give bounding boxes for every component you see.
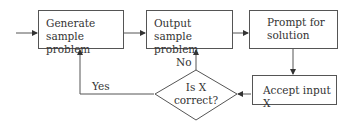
node-text-line: Output xyxy=(154,17,232,30)
node-text-line: solution xyxy=(267,29,337,42)
node-text-line: Generate xyxy=(46,17,123,30)
node-output-sample-problem: Output sample problem xyxy=(146,10,233,49)
edge-label-no: No xyxy=(176,56,192,68)
node-text-line: Prompt for xyxy=(267,16,337,29)
edge-label-yes: Yes xyxy=(92,80,110,92)
decision-text: Is X correct? xyxy=(170,81,222,107)
node-text-line: sample problem xyxy=(46,30,123,56)
node-text-line: sample problem xyxy=(154,30,232,56)
node-generate-sample-problem: Generate sample problem xyxy=(38,10,124,49)
decision-text-line: Is X xyxy=(170,81,222,94)
decision-text-line: correct? xyxy=(170,94,222,107)
node-text-line: Accept input X xyxy=(263,84,336,110)
node-prompt-for-solution: Prompt for solution xyxy=(249,10,338,49)
node-accept-input-x: Accept input X xyxy=(252,75,337,105)
